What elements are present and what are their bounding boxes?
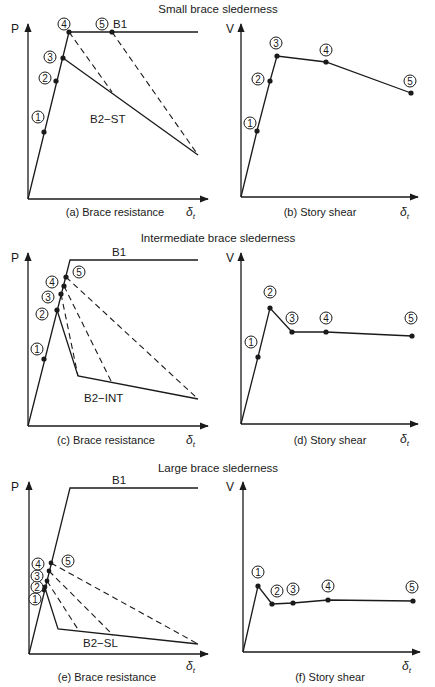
series-story-shear [243,586,413,652]
marker-label-1: 1 [29,593,41,605]
data-point-3 [58,291,63,296]
marker-label-1: 1 [245,336,257,348]
data-point-2 [267,78,272,83]
svg-text:2: 2 [39,309,45,320]
data-point-5 [109,29,114,34]
data-point-4 [47,569,52,574]
x-axis-label: δt [402,659,412,675]
marker-label-4: 4 [322,580,334,592]
delta-subscript: t [193,212,196,221]
data-point-2 [54,307,59,312]
data-point-1 [254,128,259,133]
series-B1 [29,488,198,654]
data-point-5 [49,561,54,566]
svg-text:1: 1 [32,594,38,605]
unloading-line-5 [51,563,198,644]
data-point-4 [61,283,66,288]
unloading-line-3 [47,581,79,631]
marker-label-1: 1 [244,117,256,129]
svg-text:3: 3 [45,292,51,303]
marker-label-4: 4 [32,558,44,570]
panel-c-brace-resistance: P δt 1 2 3 4 5 B1 B2−INT (c) Brace resis… [11,246,208,449]
marker-label-4: 4 [46,276,58,288]
x-axis-label: δt [186,205,196,221]
svg-text:3: 3 [47,52,53,63]
svg-text:3: 3 [289,313,295,324]
y-axis-label: P [11,22,19,36]
marker-label-3: 3 [270,37,282,49]
svg-text:3: 3 [290,584,296,595]
caption-a: (a) Brace resistance [66,206,164,218]
panel-d-story-shear: V δt 1 2 3 4 5 (d) Story shear [226,251,418,448]
x-axis-label: δt [186,433,196,449]
marker-label-4: 4 [58,18,70,30]
svg-text:4: 4 [35,559,41,570]
marker-label-5: 5 [405,312,417,324]
panel-f-story-shear: V δt 1 2 3 4 5 (f) Story shear [226,480,420,683]
panel-b-story-shear: V δt 1 2 3 4 5 (b) Story shear [226,22,418,221]
svg-text:5: 5 [408,313,414,324]
data-point-3 [289,329,294,334]
label-B1: B1 [113,18,127,30]
data-point-5 [409,333,414,338]
caption-e: (e) Brace resistance [58,671,156,683]
marker-label-3: 3 [44,51,56,63]
svg-text:4: 4 [323,313,329,324]
caption-d: (d) Story shear [294,434,367,446]
svg-text:2: 2 [274,586,280,597]
marker-label-4: 4 [320,44,332,56]
x-axis-label: δt [400,432,410,448]
svg-text:3: 3 [34,571,40,582]
marker-label-2: 2 [39,72,51,84]
svg-text:4: 4 [61,19,67,30]
data-point-5 [63,274,68,279]
data-point-1 [41,129,46,134]
marker-label-5: 5 [96,18,108,30]
marker-label-5: 5 [406,581,418,593]
series-story-shear [241,308,412,424]
series-B2-SL [45,588,198,644]
row-title-small: Small brace slederness [158,3,278,15]
marker-label-3: 3 [42,291,54,303]
label-B2-SL: B2−SL [83,637,118,649]
data-point-5 [410,598,415,603]
marker-label-3: 3 [287,583,299,595]
svg-text:5: 5 [407,76,413,87]
x-axis-label: δt [186,659,196,675]
y-axis-label: P [11,480,19,494]
panel-e-brace-resistance: P δt 1 2 3 4 5 B1 B2−SL (e) Brace resist… [11,474,208,683]
marker-label-1: 1 [252,566,264,578]
y-axis-label: P [11,251,19,265]
svg-text:1: 1 [248,337,254,348]
series-story-shear [241,56,411,197]
x-axis-label: δt [400,205,410,221]
data-point-1 [255,583,260,588]
data-point-1 [41,356,46,361]
series-B2-INT [57,310,198,399]
data-point-4 [325,597,330,602]
marker-label-4: 4 [320,312,332,324]
marker-label-2: 2 [271,585,283,597]
data-point-2 [267,305,272,310]
data-point-3 [290,600,295,605]
data-point-2 [269,601,274,606]
y-axis-label: V [226,480,234,494]
marker-label-2: 2 [252,73,264,85]
marker-label-3: 3 [31,570,43,582]
label-B1: B1 [112,474,126,486]
marker-label-2: 2 [36,308,48,320]
unloading-line-4 [64,286,112,383]
marker-label-2: 2 [31,581,43,593]
series-B2-ST [63,58,198,155]
unloading-line-5 [112,32,198,155]
caption-f: (f) Story shear [295,671,365,683]
data-point-3 [45,579,50,584]
unloading-line-4 [69,32,112,92]
unloading-line-5 [66,277,198,399]
svg-text:5: 5 [65,556,71,567]
caption-c: (c) Brace resistance [57,434,155,446]
svg-text:2: 2 [42,73,48,84]
svg-text:5: 5 [76,267,82,278]
svg-text:1: 1 [247,118,253,129]
svg-text:2: 2 [34,582,40,593]
